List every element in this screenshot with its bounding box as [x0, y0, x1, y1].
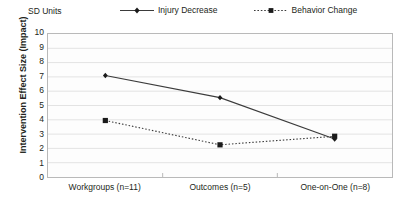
- y-tick-label: 3: [30, 130, 44, 139]
- data-point-injury-decrease: [218, 95, 223, 100]
- legend-item-injury-decrease: Injury Decrease: [120, 5, 218, 15]
- legend-item-behavior-change: Behavior Change: [254, 5, 358, 15]
- y-tick-label: 5: [30, 101, 44, 110]
- x-tick-label: Outcomes (n=5): [162, 182, 277, 204]
- plot-area: [47, 33, 393, 178]
- y-tick-label: 8: [30, 57, 44, 66]
- y-axis-tick-labels: 109876543210: [30, 27, 44, 185]
- y-tick-label: 9: [30, 43, 44, 52]
- legend-label-injury-decrease: Injury Decrease: [158, 5, 218, 15]
- y-tick-label: 2: [30, 144, 44, 153]
- y-tick-label: 7: [30, 72, 44, 81]
- y-tick-label: 4: [30, 115, 44, 124]
- sd-units-label: SD Units: [28, 6, 62, 16]
- x-tick-label: Workgroups (n=11): [47, 182, 162, 204]
- line-chart: SD Units Injury Decrease Behavior Change…: [0, 0, 408, 210]
- y-tick-label: 10: [30, 28, 44, 37]
- y-tick-label: 1: [30, 159, 44, 168]
- chart-legend: Injury Decrease Behavior Change: [120, 5, 357, 15]
- data-point-behavior-change: [217, 142, 222, 147]
- data-point-behavior-change: [103, 118, 108, 123]
- x-tick-label: One-on-One (n=8): [278, 182, 393, 204]
- y-tick-label: 0: [30, 173, 44, 182]
- y-tick-label: 6: [30, 86, 44, 95]
- series-line-injury-decrease: [105, 75, 334, 139]
- legend-label-behavior-change: Behavior Change: [292, 5, 358, 15]
- data-point-behavior-change: [332, 134, 337, 139]
- dotted-line-square-marker-icon: [254, 6, 288, 15]
- y-axis-title: Intervention Effect Size (Impact): [18, 0, 28, 170]
- series-line-behavior-change: [105, 121, 334, 145]
- x-axis-tick-labels: Workgroups (n=11)Outcomes (n=5)One-on-On…: [47, 182, 393, 204]
- solid-line-diamond-marker-icon: [120, 6, 154, 15]
